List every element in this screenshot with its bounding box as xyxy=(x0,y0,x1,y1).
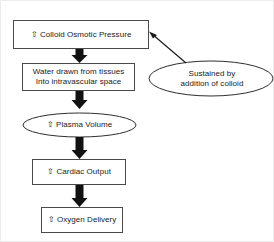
node-shape-sustained-by xyxy=(149,61,273,96)
connector-cop-to-water xyxy=(72,49,88,63)
connector-sustained-to-cop xyxy=(149,32,186,64)
node-shape-water-drawn xyxy=(23,64,135,91)
connector-cardiac-to-oxygen xyxy=(72,185,88,207)
node-shape-plasma-volume xyxy=(23,113,136,137)
connector-plasma-to-cardiac xyxy=(72,137,88,159)
flowchart-diagram: ⇧ Colloid Osmotic Pressure Water drawn f… xyxy=(0,0,274,242)
node-shape-oxygen-delivery xyxy=(42,208,123,233)
diagram-canvas xyxy=(1,1,274,242)
connector-water-to-plasma xyxy=(72,91,88,109)
node-shape-cardiac-output xyxy=(33,160,126,185)
node-shape-colloid-osmotic-pressure xyxy=(14,21,149,49)
